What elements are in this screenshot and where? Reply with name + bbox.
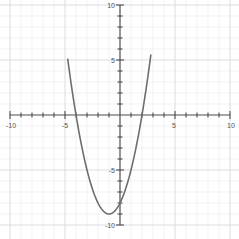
x-axis-label: 5 — [172, 122, 176, 129]
x-axis-label: -10 — [6, 122, 16, 129]
graph-canvas: -10-5510105-5-10 — [0, 0, 239, 239]
y-axis-label: 5 — [111, 57, 115, 64]
coordinate-plane: -10-5510105-5-10 — [0, 0, 239, 239]
x-axis-label: -5 — [62, 122, 68, 129]
x-axis-label: 10 — [227, 122, 235, 129]
y-axis-label: -10 — [105, 222, 115, 229]
y-axis-label: 10 — [107, 2, 115, 9]
y-axis-label: -5 — [109, 167, 115, 174]
